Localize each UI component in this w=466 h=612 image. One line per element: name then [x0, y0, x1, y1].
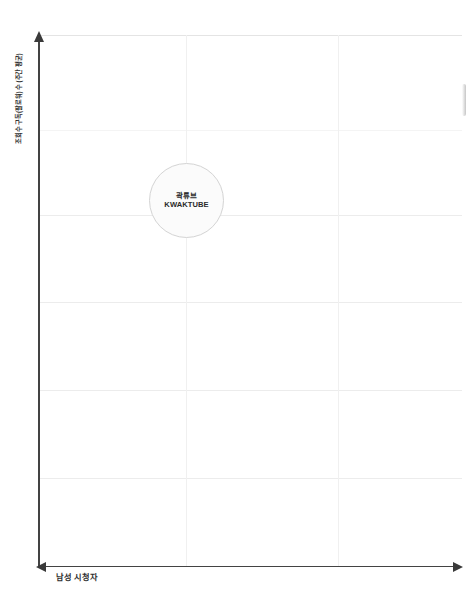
x-axis-label: 남성 시청자	[56, 573, 98, 583]
bubble-label-english: KWAKTUBE	[164, 200, 208, 210]
y-axis-arrow-icon	[34, 31, 44, 42]
edge-artifact	[462, 84, 466, 116]
gridline-vertical	[338, 35, 339, 566]
bubble-chart-canvas: 곽튜브 KWAKTUBE 조회수 구독(팔로워) 수 (주간 평균) 남성 시청…	[0, 0, 466, 612]
gridline-horizontal	[38, 390, 462, 391]
x-axis-arrow-right-icon	[453, 562, 463, 572]
gridline-horizontal	[38, 215, 462, 216]
footer-margin	[0, 594, 466, 612]
gridline-horizontal	[38, 478, 462, 479]
plot-area: 곽튜브 KWAKTUBE	[38, 35, 462, 566]
gridline-vertical	[186, 35, 187, 566]
bubble-datapoint[interactable]: 곽튜브 KWAKTUBE	[149, 163, 224, 238]
y-axis-label: 조회수 구독(팔로워) 수 (주간 평균)	[15, 39, 22, 159]
bubble-label-korean: 곽튜브	[176, 191, 197, 200]
gridline-horizontal	[38, 302, 462, 303]
x-axis-arrow-left-icon	[36, 562, 46, 572]
x-axis-line	[38, 566, 456, 568]
y-axis-line	[38, 40, 40, 567]
gridline-horizontal	[38, 35, 462, 36]
gridline-horizontal	[38, 130, 462, 131]
